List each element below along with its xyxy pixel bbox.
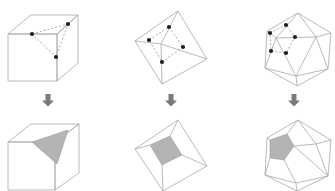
vertex-dot	[167, 25, 171, 29]
vertex-dot	[284, 23, 288, 27]
octahedron-bottom-figure	[135, 120, 207, 191]
polyhedra-dual-diagram	[0, 0, 335, 191]
vertex-dot	[54, 55, 58, 59]
shaded-square-face	[150, 136, 182, 165]
cube-bottom-figure	[8, 124, 79, 190]
vertex-dot	[30, 32, 34, 36]
down-arrow-icon	[42, 94, 54, 107]
down-arrow-icon	[288, 94, 300, 107]
icosahedron-top-figure	[265, 13, 331, 86]
down-arrow-icon	[165, 94, 177, 107]
vertex-dot	[284, 51, 288, 55]
vertex-dot	[66, 22, 70, 26]
vertex-dot	[160, 60, 164, 64]
shaded-triangle-face	[32, 130, 68, 164]
octahedron-top-figure	[135, 11, 207, 84]
cube-top-figure	[8, 15, 78, 81]
shaded-pentagon-face	[270, 134, 294, 160]
vertex-dot	[293, 35, 297, 39]
vertex-dot	[181, 45, 185, 49]
vertex-dot	[269, 49, 273, 53]
icosahedron-bottom-figure	[265, 120, 331, 191]
vertex-dot	[268, 31, 272, 35]
vertex-dot	[147, 38, 151, 42]
